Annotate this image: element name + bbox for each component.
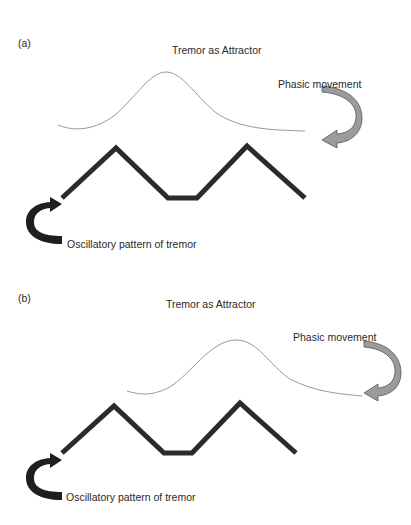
panel-a: (a) Tremor as Attractor Phasic movement …: [0, 0, 411, 262]
panel-b: (b) Tremor as Attractor Phasic movement …: [0, 262, 411, 525]
oscillatory-pattern-label: Oscillatory pattern of tremor: [66, 491, 196, 503]
phasic-movement-label: Phasic movement: [293, 331, 376, 343]
phasic-movement-arrow-icon: [364, 341, 401, 401]
panel-label: (a): [18, 37, 31, 49]
attractor-title: Tremor as Attractor: [172, 44, 261, 56]
phasic-movement-label: Phasic movement: [278, 78, 361, 90]
attractor-curve: [127, 340, 362, 396]
tremor-zigzag: [62, 146, 305, 198]
oscillatory-pattern-label: Oscillatory pattern of tremor: [67, 238, 197, 250]
oscillatory-arrow-icon: [26, 453, 62, 500]
panel-a-graphic: [0, 0, 411, 262]
tremor-zigzag: [62, 403, 296, 453]
attractor-title: Tremor as Attractor: [166, 298, 255, 310]
attractor-curve: [58, 72, 305, 131]
panel-label: (b): [18, 292, 31, 304]
oscillatory-arrow-icon: [26, 197, 62, 244]
phasic-movement-arrow-icon: [322, 86, 362, 148]
